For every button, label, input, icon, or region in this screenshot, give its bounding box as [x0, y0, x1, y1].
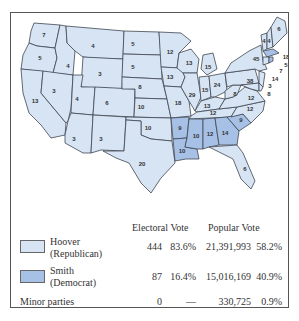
smith-swatch [20, 270, 45, 283]
svg-text:10: 10 [179, 148, 186, 154]
svg-text:5: 5 [284, 62, 288, 68]
state-FL [209, 145, 255, 189]
electoral-percent: 16.4% [162, 271, 196, 282]
svg-text:18: 18 [175, 100, 182, 106]
electoral-votes: 0 [138, 296, 162, 307]
svg-text:29: 29 [189, 92, 196, 98]
state-MA [263, 49, 279, 57]
state-RI [269, 57, 273, 63]
svg-text:8: 8 [267, 91, 271, 97]
minor-parties-label: Minor parties [20, 296, 74, 307]
svg-text:10: 10 [145, 125, 152, 131]
svg-text:14: 14 [272, 76, 279, 82]
svg-text:15: 15 [205, 64, 212, 70]
state-CT [263, 57, 269, 65]
svg-text:38: 38 [247, 78, 254, 84]
popular-percent: 58.2% [251, 241, 282, 252]
svg-text:12: 12 [210, 110, 217, 116]
popular-votes: 330,725 [200, 296, 251, 307]
hoover-swatch [20, 240, 45, 253]
candidate-name: Hoover [50, 236, 102, 248]
svg-text:12: 12 [248, 95, 255, 101]
svg-text:12: 12 [167, 49, 174, 55]
state-AZ [65, 113, 93, 153]
popular-votes: 15,016,169 [200, 271, 251, 282]
svg-text:10: 10 [138, 104, 145, 110]
state-CO [93, 87, 135, 117]
electoral-votes: 444 [138, 241, 162, 252]
svg-text:14: 14 [222, 130, 229, 136]
state-ND [123, 31, 161, 55]
svg-text:12: 12 [247, 106, 254, 112]
popular-percent: 0.9% [251, 296, 282, 307]
svg-text:13: 13 [186, 60, 193, 66]
state-NM [91, 115, 126, 153]
svg-text:13: 13 [32, 98, 39, 104]
header-popular-vote: Popular Vote [208, 222, 260, 233]
svg-text:24: 24 [214, 82, 221, 88]
svg-text:20: 20 [139, 161, 146, 167]
svg-text:13: 13 [167, 74, 174, 80]
header-electoral-vote: Electoral Vote [132, 222, 189, 233]
electoral-votes: 87 [138, 271, 162, 282]
svg-text:13: 13 [204, 103, 211, 109]
us-election-map: 7 5 13 4 3 4 3 4 6 3 3 5 5 8 10 10 20 12… [11, 13, 288, 213]
state-ME [271, 17, 287, 47]
state-SD [122, 54, 162, 79]
candidate-name: Smith [50, 265, 96, 277]
state-NY [225, 45, 267, 73]
candidate-party: (Republican) [50, 248, 102, 260]
electoral-percent: — [162, 296, 196, 307]
svg-text:15: 15 [202, 87, 209, 93]
popular-percent: 40.9% [251, 271, 282, 282]
state-WY [81, 57, 123, 89]
candidate-party: (Democrat) [50, 277, 96, 289]
popular-votes: 21,391,993 [200, 241, 251, 252]
svg-text:10: 10 [193, 133, 200, 139]
svg-text:45: 45 [253, 56, 260, 62]
svg-text:7: 7 [279, 68, 283, 74]
svg-text:3: 3 [268, 83, 272, 89]
svg-text:18: 18 [283, 54, 288, 60]
electoral-percent: 83.6% [162, 241, 196, 252]
svg-text:12: 12 [207, 131, 214, 137]
